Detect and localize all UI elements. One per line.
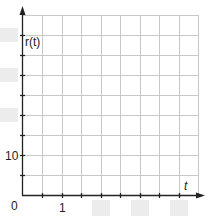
- coordinate-grid: [0, 0, 205, 216]
- y-tick-label-10: 10: [5, 150, 18, 162]
- origin-label: 0: [11, 200, 18, 212]
- axes: [20, 12, 200, 198]
- x-axis-arrow-icon: [196, 193, 205, 199]
- y-axis-label: r(t): [24, 36, 41, 48]
- x-tick-label-1: 1: [59, 202, 66, 214]
- x-axis-label: t: [184, 180, 187, 192]
- grid-lines: [22, 15, 199, 195]
- y-axis-arrow-icon: [20, 6, 26, 15]
